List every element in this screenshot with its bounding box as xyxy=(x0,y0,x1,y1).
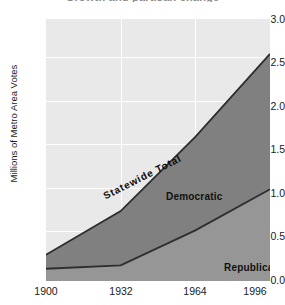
x-axis-tick-1900: 1900 xyxy=(16,286,76,297)
x-axis-tick-1996: 1996 xyxy=(225,286,285,297)
x-axis-tick-1932: 1932 xyxy=(91,286,151,297)
stacked-area-series xyxy=(46,19,270,281)
plot-area: Statewide Total Democratic Republican xyxy=(46,19,270,281)
y-axis-label: Millions of Metro Area Votes xyxy=(8,49,19,199)
annotation-democratic: Democratic xyxy=(166,191,222,202)
chart-title-remnant: Growth and partisan change xyxy=(0,0,285,2)
annotation-republican: Republican xyxy=(224,262,270,273)
x-axis-tick-1964: 1964 xyxy=(165,286,225,297)
chart-figure: Growth and partisan change 3.0 2.5 2.0 1… xyxy=(0,0,285,305)
